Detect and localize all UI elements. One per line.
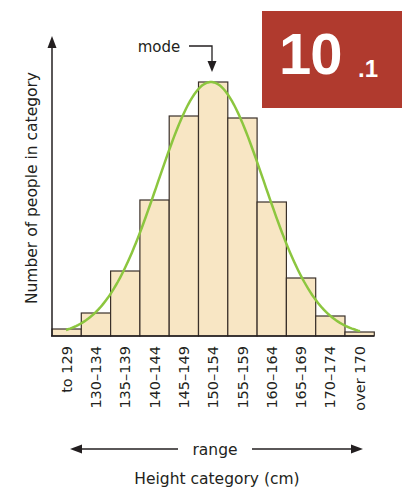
bar: [316, 316, 345, 336]
badge-number: 10: [279, 25, 342, 83]
range-left-arrow-icon: [70, 445, 82, 454]
bar: [81, 313, 110, 336]
x-tick-label: 160–164: [264, 346, 280, 409]
x-tick-label: 140–144: [147, 346, 163, 409]
range-right-arrow-icon: [351, 445, 363, 454]
x-tick-label: to 129: [59, 346, 75, 393]
section-badge: 10 .1: [262, 11, 402, 108]
mode-label: mode: [138, 38, 181, 56]
range-label: range: [192, 441, 237, 459]
bar: [257, 202, 286, 336]
x-tick-label: 165–169: [293, 346, 309, 409]
x-tick-label: 155–159: [235, 346, 251, 409]
badge-subnumber: .1: [358, 57, 378, 81]
bars-group: [52, 82, 374, 336]
mode-arrow-icon: [208, 61, 217, 72]
x-tick-label: 130–134: [88, 346, 104, 409]
x-axis-label: Height category (cm): [134, 470, 299, 488]
x-tick-label: 135–139: [117, 346, 133, 409]
bar: [169, 116, 198, 336]
y-axis-arrow-icon: [48, 36, 57, 48]
x-tick-label: 150–154: [205, 346, 221, 409]
x-tick-label: over 170: [352, 346, 368, 411]
y-axis-label: Number of people in category: [23, 72, 41, 304]
bar: [286, 278, 315, 336]
bar: [111, 271, 140, 336]
x-tick-label: 170–174: [322, 346, 338, 409]
x-tick-label: 145–149: [176, 346, 192, 409]
bar: [199, 82, 228, 336]
x-tick-labels: to 129130–134135–139140–144145–149150–15…: [59, 346, 368, 411]
